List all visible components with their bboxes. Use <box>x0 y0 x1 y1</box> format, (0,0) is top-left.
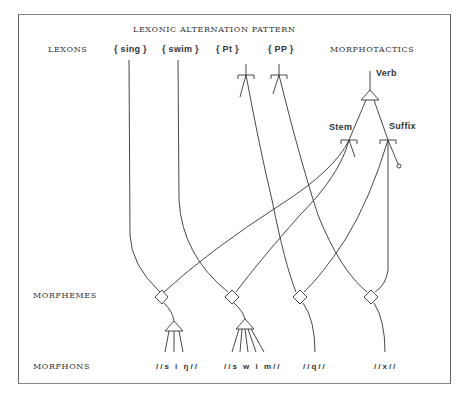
morphon-triangle-sing <box>165 321 183 331</box>
line-pt <box>246 75 296 292</box>
line-stem-swim <box>236 140 349 292</box>
line-stem-sing <box>164 140 349 292</box>
morphon-triangle-swim <box>236 319 254 329</box>
line-sing <box>129 60 160 292</box>
pt-and-node <box>238 64 254 97</box>
pp-and-node <box>271 64 287 94</box>
line-swim <box>178 60 228 292</box>
line-suffix-x <box>375 140 388 292</box>
network-diagram <box>0 0 465 396</box>
morpheme-diamond-4 <box>364 290 378 304</box>
stem-and-node <box>341 140 357 157</box>
morpheme-diamond-2 <box>225 290 239 304</box>
morpheme-diamond-3 <box>293 290 307 304</box>
line-pp <box>279 75 367 292</box>
verb-or-triangle <box>361 90 379 100</box>
morpheme-diamond-1 <box>155 290 168 304</box>
